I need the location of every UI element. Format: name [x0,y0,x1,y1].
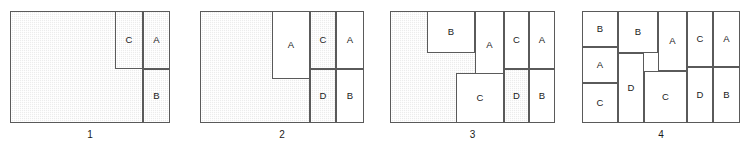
piece-label: C [596,98,603,108]
packed-piece-a: A [658,11,687,71]
piece-label: B [597,24,604,34]
piece-label: D [513,91,520,101]
piece-label: C [696,34,703,44]
piece-label: B [153,91,160,101]
packed-piece-a: A [143,11,170,69]
piece-label: A [597,60,604,70]
piece-label: B [448,27,455,37]
panel-caption-2: 2 [200,130,364,140]
packed-piece-a: A [713,11,740,67]
panel-caption-3: 3 [390,130,555,140]
packed-piece-b: B [713,67,740,123]
packed-piece-d: D [504,69,529,123]
piece-label: A [723,34,730,44]
panel-caption-4: 4 [582,130,740,140]
piece-label: D [319,91,326,101]
packed-piece-b: B [143,69,170,123]
packed-piece-c: C [644,71,687,123]
packed-piece-d: D [687,67,713,123]
piece-label: C [513,35,520,45]
piece-label: C [476,93,483,103]
packing-stages-figure: CAB1ACADB2BACCADB3BACBDACCADB4 [0,0,754,147]
packed-piece-c: C [504,11,529,69]
packed-piece-a: A [272,11,310,79]
piece-label: A [347,35,354,45]
packed-piece-a: A [582,47,618,83]
packed-piece-b: B [529,69,555,123]
packed-piece-d: D [310,69,336,123]
packing-panel-2: ACADB [200,11,364,123]
packed-piece-c: C [582,83,618,123]
packed-piece-b: B [618,11,658,53]
packed-piece-a: A [529,11,555,69]
piece-label: C [125,35,132,45]
piece-label: B [539,91,546,101]
piece-label: A [486,40,493,50]
piece-label: A [539,35,546,45]
packed-piece-b: B [427,11,475,53]
piece-label: D [627,83,634,93]
piece-label: B [723,90,730,100]
packed-piece-c: C [456,73,504,123]
piece-label: A [153,35,160,45]
packing-panel-4: BACBDACCADB [582,11,740,123]
piece-label: A [288,40,295,50]
piece-label: B [347,91,354,101]
packed-piece-c: C [310,11,336,69]
packed-piece-d: D [618,53,644,123]
panel-caption-1: 1 [10,130,170,140]
piece-label: C [319,35,326,45]
piece-label: C [662,92,669,102]
packed-piece-c: C [687,11,713,67]
packing-panel-3: BACCADB [390,11,555,123]
packed-piece-b: B [582,11,618,47]
packed-piece-a: A [475,11,504,79]
packed-piece-c: C [115,11,143,69]
piece-label: B [635,27,642,37]
packing-panel-1: CAB [10,11,170,123]
piece-label: D [696,90,703,100]
packed-piece-b: B [336,69,364,123]
piece-label: A [669,36,676,46]
packed-piece-a: A [336,11,364,69]
